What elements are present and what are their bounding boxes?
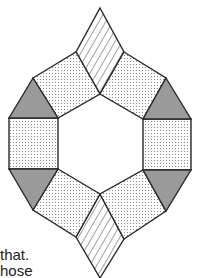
square-right (143, 119, 191, 170)
hexagonal-tile-ring-diagram (0, 0, 197, 278)
square-left (9, 118, 58, 169)
caption-fragment-line-2: hose (0, 263, 33, 278)
caption-fragment-line-1: that. (0, 247, 29, 263)
